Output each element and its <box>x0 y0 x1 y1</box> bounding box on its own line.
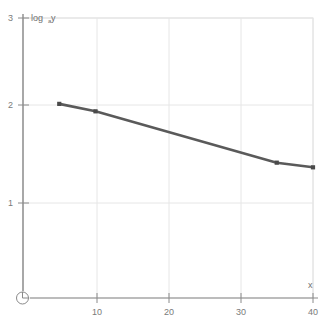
chart-container: 3 2 1 10 20 30 40 log a y x <box>0 0 324 328</box>
y-tick-label-2: 2 <box>8 100 13 110</box>
data-point-marker <box>93 109 97 113</box>
y-tick-label-3: 3 <box>8 13 13 23</box>
x-tick-label-30: 30 <box>236 307 246 317</box>
x-tick-label-20: 20 <box>164 307 174 317</box>
y-axis-title-variable: y <box>51 13 56 23</box>
y-axis-title-main: log <box>31 13 43 23</box>
x-axis-title: x <box>308 280 313 290</box>
y-tick-label-1: 1 <box>8 198 13 208</box>
plot-background <box>23 18 313 298</box>
data-point-marker <box>311 165 315 169</box>
x-tick-label-40: 40 <box>308 307 318 317</box>
x-tick-label-10: 10 <box>92 307 102 317</box>
data-point-marker <box>275 161 279 165</box>
data-point-marker <box>57 102 61 106</box>
semilog-line-chart: 3 2 1 10 20 30 40 log a y x <box>0 0 324 328</box>
